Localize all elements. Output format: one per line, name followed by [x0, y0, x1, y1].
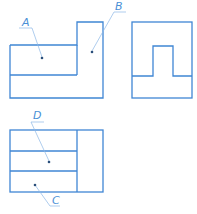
side-outline: [132, 22, 192, 98]
side-view: [132, 22, 192, 98]
label-d-dot: [48, 161, 51, 164]
side-notch: [132, 46, 192, 76]
label-b: B: [115, 0, 123, 13]
top-view: D C: [10, 109, 103, 207]
front-outline: [10, 22, 103, 98]
label-b-dot: [91, 51, 94, 54]
label-a-leader: [32, 28, 42, 57]
front-view: A B: [10, 0, 126, 98]
label-a: A: [21, 16, 30, 29]
label-c: C: [52, 194, 60, 207]
label-d: D: [33, 109, 41, 122]
label-a-dot: [41, 57, 44, 60]
label-d-leader: [31, 122, 49, 161]
label-c-leader: [35, 185, 50, 206]
projection-drawing: A B D C: [0, 0, 197, 214]
top-outline: [10, 130, 103, 192]
label-c-dot: [34, 184, 37, 187]
